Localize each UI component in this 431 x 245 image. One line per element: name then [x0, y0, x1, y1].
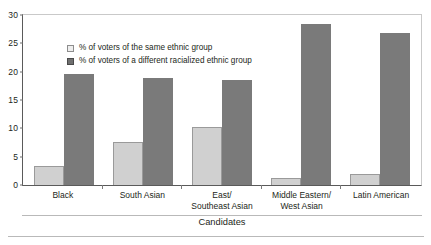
bar-different-ethnic-1 — [143, 78, 173, 185]
chart-legend: % of voters of the same ethnic group % o… — [67, 43, 252, 66]
axis-title-divider — [22, 215, 422, 216]
x-axis-label-latin-american: Latin American — [341, 190, 421, 211]
bar-group-container — [24, 15, 420, 185]
x-axis-label-east-southeast-asian: East/ Southeast Asian — [182, 190, 262, 211]
bar-same-ethnic-1 — [113, 142, 143, 185]
bar-same-ethnic-4 — [350, 174, 380, 185]
bar-chart-figure: 0 5 10 15 20 25 30 — [0, 0, 431, 245]
x-axis-label-line: Middle Eastern/ — [262, 190, 342, 201]
legend-swatch-icon-light — [67, 45, 74, 52]
x-axis-label-black: Black — [23, 190, 103, 211]
x-axis-title: Candidates — [22, 217, 422, 227]
y-tick-label-25: 25 — [8, 38, 23, 48]
legend-item-same-ethnic: % of voters of the same ethnic group — [67, 43, 252, 53]
bar-group — [24, 15, 103, 185]
y-tick-label-5: 5 — [13, 152, 23, 162]
bar-same-ethnic-2 — [192, 127, 222, 185]
bar-different-ethnic-2 — [222, 80, 252, 185]
bar-different-ethnic-4 — [380, 33, 410, 185]
x-axis-label-line: East/ — [182, 190, 262, 201]
bar-different-ethnic-3 — [301, 24, 331, 186]
x-axis-label-line: Southeast Asian — [182, 201, 262, 212]
x-axis-labels: Black South Asian East/ Southeast Asian … — [23, 190, 421, 211]
x-axis-separator — [181, 185, 182, 189]
legend-label-same-ethnic: % of voters of the same ethnic group — [79, 43, 212, 53]
bar-same-ethnic-3 — [271, 178, 301, 185]
legend-item-different-ethnic: % of voters of a different racialized et… — [67, 56, 252, 66]
figure-bottom-divider — [8, 236, 424, 237]
y-tick-label-15: 15 — [8, 95, 23, 105]
plot-area: 0 5 10 15 20 25 30 — [22, 14, 422, 186]
x-axis-label-line: South Asian — [103, 190, 183, 201]
x-axis-label-line: West Asian — [262, 201, 342, 212]
bar-same-ethnic-0 — [34, 166, 64, 185]
x-axis-separator — [102, 185, 103, 189]
y-tick-label-0: 0 — [13, 180, 23, 190]
bar-group — [103, 15, 182, 185]
bar-different-ethnic-0 — [64, 74, 94, 185]
x-axis-label-middle-eastern-west-asian: Middle Eastern/ West Asian — [262, 190, 342, 211]
x-axis-label-south-asian: South Asian — [103, 190, 183, 211]
legend-swatch-icon-dark — [67, 58, 74, 65]
x-axis-label-line: Latin American — [341, 190, 421, 201]
x-axis-label-line: Black — [23, 190, 103, 201]
y-tick-label-20: 20 — [8, 67, 23, 77]
bar-group — [262, 15, 341, 185]
bar-group — [341, 15, 420, 185]
x-axis-separator — [340, 185, 341, 189]
y-tick-label-10: 10 — [8, 123, 23, 133]
bar-group — [182, 15, 261, 185]
legend-label-different-ethnic: % of voters of a different racialized et… — [79, 56, 252, 66]
y-tick-label-30: 30 — [8, 10, 23, 20]
x-axis-separator — [261, 185, 262, 189]
